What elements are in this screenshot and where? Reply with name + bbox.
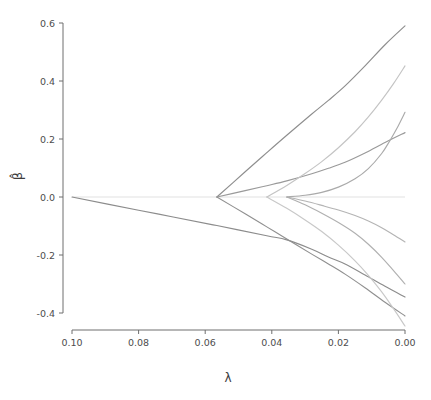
y-tick-label-3: 0.2	[40, 134, 55, 145]
y-tick-label-1: -0.2	[36, 250, 55, 261]
regularization-path-chart: -0.4-0.20.00.20.40.6 0.100.080.060.040.0…	[0, 0, 431, 400]
y-tick-label-5: 0.6	[40, 18, 55, 29]
y-tick-label-4: 0.4	[40, 76, 55, 87]
y-tick-label-2: 0.0	[40, 192, 55, 203]
x-tick-label-4: 0.02	[328, 337, 349, 348]
x-tick-label-2: 0.06	[195, 337, 216, 348]
x-tick-label-3: 0.04	[261, 337, 282, 348]
x-tick-label-0: 0.10	[61, 337, 82, 348]
x-tick-label-5: 0.00	[394, 337, 415, 348]
y-tick-label-0: -0.4	[36, 308, 55, 319]
x-tick-label-1: 0.08	[128, 337, 149, 348]
y-axis-label: β̂	[9, 172, 25, 180]
chart-root: -0.4-0.20.00.20.40.6 0.100.080.060.040.0…	[0, 0, 431, 400]
x-axis-label: λ	[224, 371, 231, 385]
